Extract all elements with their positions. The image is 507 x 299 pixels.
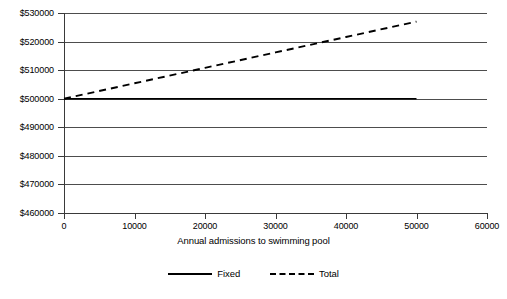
y-tick-label-490000: $490000: [0, 122, 54, 132]
x-tick-label-60000: 60000: [457, 221, 507, 231]
legend-item-total[interactable]: Total: [270, 268, 339, 279]
series-layer: [64, 13, 487, 213]
y-tick-label-500000: $500000: [0, 94, 54, 104]
x-tick-label-20000: 20000: [175, 221, 235, 231]
legend-item-fixed[interactable]: Fixed: [168, 268, 240, 279]
x-tick-label-40000: 40000: [316, 221, 376, 231]
y-tick-label-520000: $520000: [0, 37, 54, 47]
x-tick-40000: [346, 213, 347, 219]
x-tick-label-30000: 30000: [246, 221, 306, 231]
line-chart: $530000 $520000 $510000 $500000 $490000 …: [0, 0, 507, 299]
x-tick-0: [64, 213, 65, 219]
chart-legend: Fixed Total: [0, 268, 507, 279]
x-tick-10000: [135, 213, 136, 219]
x-tick-60000: [487, 213, 488, 219]
legend-label-total: Total: [319, 268, 339, 279]
y-tick-label-470000: $470000: [0, 179, 54, 189]
x-tick-label-0: 0: [34, 221, 94, 231]
x-axis-title: Annual admissions to swimming pool: [0, 235, 507, 247]
x-tick-label-50000: 50000: [387, 221, 447, 231]
legend-label-fixed: Fixed: [217, 268, 240, 279]
series-line-total: [64, 22, 417, 99]
x-tick-50000: [417, 213, 418, 219]
y-tick-label-460000: $460000: [0, 208, 54, 218]
y-tick-label-480000: $480000: [0, 151, 54, 161]
legend-swatch-dashed-icon: [270, 273, 314, 275]
x-tick-label-10000: 10000: [105, 221, 165, 231]
y-tick-label-530000: $530000: [0, 8, 54, 18]
y-tick-label-510000: $510000: [0, 65, 54, 75]
x-tick-20000: [205, 213, 206, 219]
x-tick-30000: [276, 213, 277, 219]
legend-swatch-solid-icon: [168, 273, 212, 275]
